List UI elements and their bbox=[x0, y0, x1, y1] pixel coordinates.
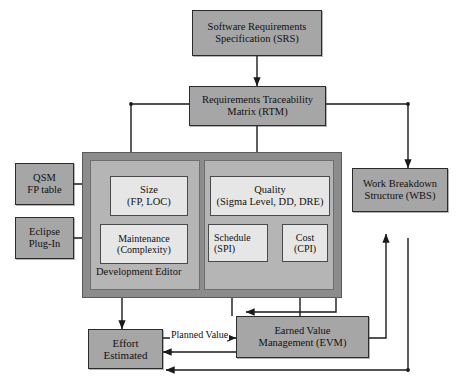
node-software-requirements-specification[interactable]: Software Requirements Specification (SRS… bbox=[192, 10, 322, 56]
quality-line-2: (Sigma Level, DD, DRE) bbox=[216, 196, 323, 208]
rtm-line-1: Requirements Traceability bbox=[202, 94, 313, 106]
node-maintenance[interactable]: Maintenance (Complexity) bbox=[100, 224, 188, 264]
qsm-line-1: QSM bbox=[33, 172, 56, 184]
eclipse-line-1: Eclipse bbox=[29, 226, 60, 238]
evm-line-2: Management (EVM) bbox=[259, 337, 347, 349]
node-qsm-fp-table[interactable]: QSM FP table bbox=[15, 163, 74, 205]
size-line-2: (FP, LOC) bbox=[127, 196, 171, 208]
cost-line-1: Cost bbox=[296, 232, 314, 243]
wbs-line-2: Structure (WBS) bbox=[365, 190, 436, 202]
effort-line-2: Estimated bbox=[104, 349, 148, 361]
schedule-line-2: (SPI) bbox=[214, 243, 235, 254]
quality-line-1: Quality bbox=[254, 184, 286, 196]
schedule-line-1: Schedule bbox=[214, 232, 251, 243]
maintenance-line-1: Maintenance bbox=[118, 233, 170, 244]
diagram-canvas: Software Requirements Specification (SRS… bbox=[0, 0, 458, 391]
cost-line-2: (CPI) bbox=[294, 243, 316, 254]
wbs-line-1: Work Breakdown bbox=[363, 178, 437, 190]
development-editor-label: Development Editor bbox=[96, 266, 181, 277]
node-quality[interactable]: Quality (Sigma Level, DD, DRE) bbox=[210, 176, 330, 216]
maintenance-line-2: (Complexity) bbox=[117, 244, 171, 255]
srs-line-1: Software Requirements bbox=[208, 21, 307, 33]
effort-line-1: Effort bbox=[112, 337, 138, 349]
size-line-1: Size bbox=[140, 184, 158, 196]
eclipse-line-2: Plug-In bbox=[29, 238, 61, 250]
qsm-line-2: FP table bbox=[27, 184, 61, 196]
edge-label-planned-value: Planned Value bbox=[170, 329, 229, 340]
node-work-breakdown-structure[interactable]: Work Breakdown Structure (WBS) bbox=[352, 168, 448, 212]
node-effort-estimated[interactable]: Effort Estimated bbox=[88, 329, 163, 369]
evm-line-1: Earned Value bbox=[274, 325, 330, 337]
node-cost[interactable]: Cost (CPI) bbox=[282, 224, 328, 262]
srs-line-2: Specification (SRS) bbox=[215, 33, 299, 45]
rtm-line-2: Matrix (RTM) bbox=[227, 106, 287, 118]
node-size[interactable]: Size (FP, LOC) bbox=[110, 176, 188, 216]
node-requirements-traceability-matrix[interactable]: Requirements Traceability Matrix (RTM) bbox=[189, 86, 326, 126]
node-earned-value-management[interactable]: Earned Value Management (EVM) bbox=[236, 316, 369, 358]
node-schedule[interactable]: Schedule (SPI) bbox=[208, 224, 268, 262]
node-eclipse-plugin[interactable]: Eclipse Plug-In bbox=[15, 217, 74, 259]
